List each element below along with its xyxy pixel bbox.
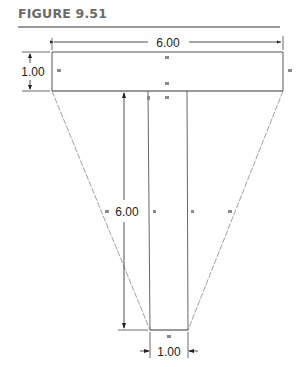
marker-right-flange (288, 69, 292, 72)
marker-left-taper (105, 210, 109, 213)
dimension-web-height[interactable]: 6.00 (115, 92, 148, 330)
marker-inner-right (191, 210, 194, 213)
tapered-web[interactable] (52, 91, 283, 330)
marker-top-edge (165, 56, 169, 59)
dim-web-height-label[interactable]: 6.00 (115, 205, 139, 219)
marker-left-flange (57, 69, 61, 72)
dim-top-width-label[interactable]: 6.00 (156, 36, 180, 50)
marker-web-left-top (147, 96, 150, 100)
dim-top-height-label[interactable]: 1.00 (21, 65, 45, 79)
dim-bottom-width-label[interactable]: 1.00 (157, 345, 181, 359)
marker-web-mid-top (165, 96, 169, 99)
dimension-top-width[interactable]: 6.00 (52, 36, 283, 50)
marker-inner-left (153, 210, 156, 213)
marker-flange-bottom (165, 82, 169, 85)
relation-markers[interactable] (57, 56, 292, 338)
dimension-top-height[interactable]: 1.00 (21, 52, 50, 91)
marker-bottom-edge (167, 335, 171, 338)
sketch-drawing: 6.00 1.00 6.00 1.00 (0, 0, 299, 367)
marker-right-taper (228, 210, 232, 213)
